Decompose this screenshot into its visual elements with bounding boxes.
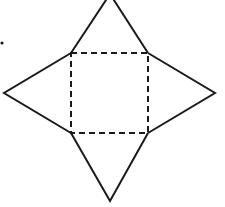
pyramid-net-diagram [0, 0, 225, 207]
square-base [71, 53, 148, 133]
triangle-face-bottom [71, 133, 148, 201]
marker-dot [0, 41, 3, 44]
triangle-face-top [71, 0, 148, 53]
triangle-faces [4, 0, 215, 201]
triangle-face-right [148, 53, 215, 133]
triangle-face-left [4, 53, 71, 133]
